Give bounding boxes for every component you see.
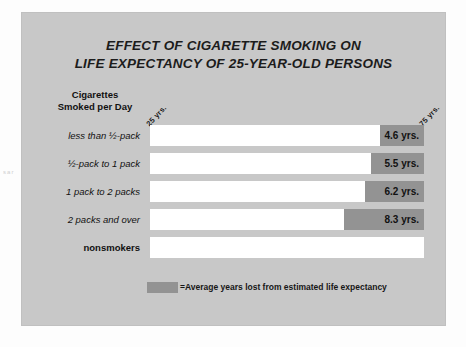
row-bar-track (150, 237, 424, 258)
row-category-label: less than ½-pack (22, 125, 140, 146)
facing-page-bleed-text: s a r (3, 168, 17, 238)
row-lost-segment: 5.5 yrs. (371, 153, 424, 174)
row-category-label: nonsmokers (22, 237, 140, 258)
row-value-label: 4.6 yrs. (385, 125, 419, 146)
row-bar-track: 5.5 yrs. (150, 153, 424, 174)
row-lost-segment: 6.2 yrs. (365, 181, 424, 202)
chart-title-line-2: LIFE EXPECTANCY OF 25-YEAR-OLD PERSONS (22, 55, 445, 73)
page-canvas: s a r EFFECT OF CIGARETTE SMOKING ON LIF… (0, 0, 466, 347)
row-bar-track: 6.2 yrs. (150, 181, 424, 202)
chart-title: EFFECT OF CIGARETTE SMOKING ON LIFE EXPE… (22, 37, 445, 73)
chart-row: nonsmokers (22, 237, 445, 258)
chart-row: less than ½-pack 4.6 yrs. (22, 125, 445, 146)
row-value-label: 8.3 yrs. (385, 209, 419, 230)
legend-label: =Average years lost from estimated life … (180, 281, 387, 294)
row-category-label: ½-pack to 1 pack (22, 153, 140, 174)
chart-row: 1 pack to 2 packs 6.2 yrs. (22, 181, 445, 202)
row-lost-segment: 4.6 yrs. (380, 125, 424, 146)
category-column-header-line-2: Smoked per Day (40, 101, 150, 113)
row-bar-track: 8.3 yrs. (150, 209, 424, 230)
chart-row: 2 packs and over 8.3 yrs. (22, 209, 445, 230)
chart-panel: EFFECT OF CIGARETTE SMOKING ON LIFE EXPE… (22, 13, 445, 325)
row-category-label: 2 packs and over (22, 209, 140, 230)
category-column-header: Cigarettes Smoked per Day (40, 89, 150, 112)
category-column-header-line-1: Cigarettes (40, 89, 150, 101)
chart-title-line-1: EFFECT OF CIGARETTE SMOKING ON (106, 38, 361, 53)
row-value-label: 6.2 yrs. (385, 181, 419, 202)
row-category-label: 1 pack to 2 packs (22, 181, 140, 202)
chart-row: ½-pack to 1 pack 5.5 yrs. (22, 153, 445, 174)
row-value-label: 5.5 yrs. (385, 153, 419, 174)
legend-swatch-icon (147, 282, 178, 293)
row-bar-track: 4.6 yrs. (150, 125, 424, 146)
row-lost-segment: 8.3 yrs. (344, 209, 424, 230)
